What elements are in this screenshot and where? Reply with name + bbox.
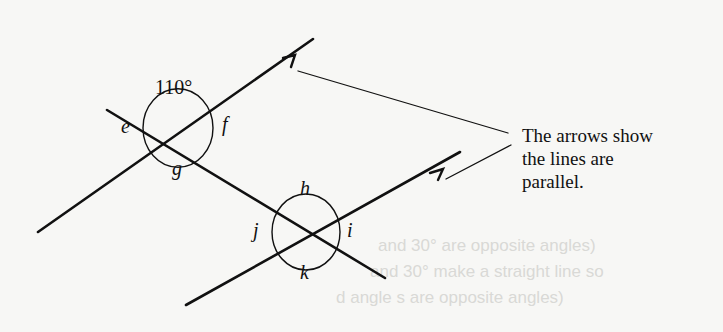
angle-label-j: j <box>253 220 259 240</box>
angle-circle-upper <box>143 89 213 167</box>
angle-label-e: e <box>121 116 130 136</box>
callout-leader-lower <box>446 145 511 179</box>
parallel-line-upper <box>38 39 313 232</box>
angle-circle-lower <box>272 194 340 270</box>
parallel-arrow-upper-icon <box>283 55 295 67</box>
angle-label-g: g <box>172 158 182 178</box>
parallel-line-lower <box>186 152 460 305</box>
angle-label-i: i <box>347 220 353 240</box>
callout-line-1: The arrows show <box>522 124 712 147</box>
parallel-arrow-lower-icon <box>430 169 443 180</box>
transversal-line <box>107 110 385 278</box>
callout-line-2: the lines are <box>522 147 712 170</box>
callout-leader-upper <box>298 71 508 133</box>
callout-line-3: parallel. <box>522 170 712 193</box>
angle-label-h: h <box>300 178 310 198</box>
angle-label-k: k <box>300 262 309 282</box>
angle-label-f: f <box>222 114 228 134</box>
given-angle-label: 110° <box>155 77 192 97</box>
callout-note: The arrows show the lines are parallel. <box>522 124 712 193</box>
diagram-canvas: and 30° are opposite angles) and 30° mak… <box>0 0 723 332</box>
